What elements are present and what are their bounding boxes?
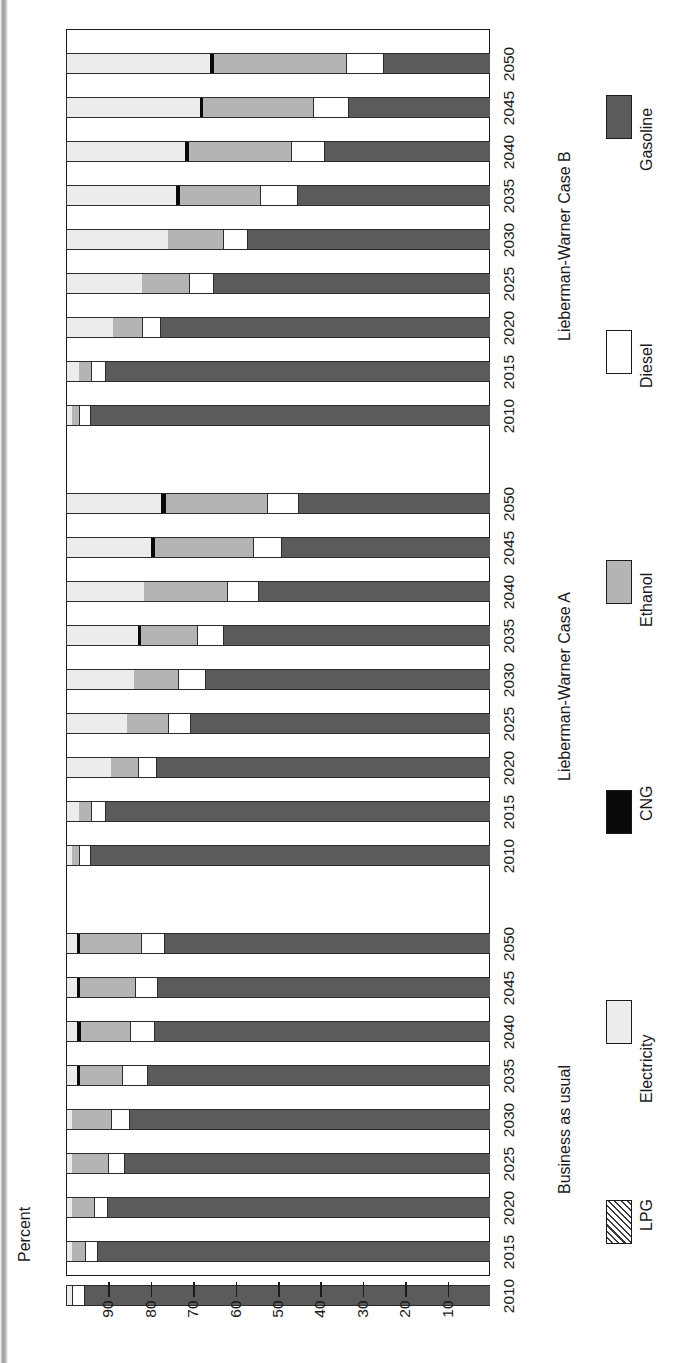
bar-segment-ethanol [203,97,313,118]
bar-segment-gasoline [349,97,490,118]
legend-label-diesel: Diesel [638,344,656,388]
table-row [66,1241,490,1262]
legend-item-gasoline: Gasoline [598,95,696,245]
bar-segment-electricity [66,933,77,954]
table-row [66,713,490,734]
axis-tick-label-10: 10 [439,1289,457,1329]
bar-segment-ethanol [189,141,291,162]
year-label-2025: 2025 [492,1153,548,1174]
bar-segment-ethanol [141,625,196,646]
legend-label-electricity: Electricity [638,1035,656,1103]
bar-segment-gasoline [158,977,490,998]
legend-swatch-ethanol-icon [606,560,632,604]
table-row [66,1109,490,1130]
year-label-2010: 2010 [492,845,548,866]
bar-segment-diesel [79,845,92,866]
bar-segment-diesel [85,1241,98,1262]
bar-segment-electricity [66,493,161,514]
bar-segment-gasoline [282,537,490,558]
bar-segment-diesel [135,977,158,998]
axis-tick-label-80: 80 [142,1289,160,1329]
bar-segment-ethanol [80,1065,122,1086]
year-label-2015: 2015 [492,1241,548,1262]
bar-segment-ethanol [214,53,345,74]
legend-item-lpg: LPG [598,1200,696,1350]
bar-segment-gasoline [91,405,490,426]
bar-segment-ethanol [134,669,179,690]
bar-segment-gasoline [299,493,490,514]
legend-swatch-electricity-icon [606,1000,632,1044]
bar-segment-electricity [66,1065,77,1086]
bar-segment-ethanol [127,713,167,734]
bar-segment-diesel [142,317,161,338]
axis-tick-label-60: 60 [227,1289,245,1329]
legend-label-gasoline: Gasoline [638,108,656,171]
year-label-2020: 2020 [492,757,548,778]
bar-segment-ethanol [72,1241,85,1262]
axis-tick-label-50: 50 [269,1289,287,1329]
table-row [66,1065,490,1086]
bar-segment-gasoline [125,1153,490,1174]
legend-swatch-lpg-icon [606,1200,632,1244]
bar-segment-gasoline [130,1109,490,1130]
bar-segment-electricity [66,581,144,602]
year-label-2035: 2035 [492,1065,548,1086]
bar-segment-electricity [66,361,79,382]
table-row [66,53,490,74]
legend-label-ethanol: Ethanol [638,573,656,627]
year-label-2020: 2020 [492,1197,548,1218]
bar-segment-diesel [91,801,106,822]
bar-segment-gasoline [106,361,490,382]
table-row [66,141,490,162]
bar-segment-ethanol [180,185,261,206]
year-label-2035: 2035 [492,625,548,646]
value-axis: 908070605040302010 [66,1276,490,1277]
bar-segment-diesel [223,229,248,250]
table-row [66,1021,490,1042]
table-row [66,1197,490,1218]
group-label-lw-case-a: Lieberman-Warner Case A [556,592,574,781]
bar-segment-ethanol [72,1197,93,1218]
bar-segment-gasoline [155,1021,490,1042]
bar-segment-gasoline [298,185,490,206]
bar-segment-diesel [141,933,164,954]
bar-segment-diesel [79,405,92,426]
bar-segment-diesel [94,1197,109,1218]
axis-tick-label-20: 20 [396,1289,414,1329]
legend-label-lpg: LPG [638,1199,656,1231]
year-label-2030: 2030 [492,229,548,250]
bar-segment-diesel [122,1065,147,1086]
bar-segment-diesel [108,1153,125,1174]
bar-segment-electricity [66,229,168,250]
year-label-2050: 2050 [492,933,548,954]
axis-tick-label-30: 30 [354,1289,372,1329]
year-label-2015: 2015 [492,361,548,382]
legend-label-cng: CNG [638,785,656,821]
bar-segment-diesel [313,97,349,118]
bar-segment-diesel [111,1109,130,1130]
stacked-bar-figure: 908070605040302010 Percent 2050204520402… [0,0,696,1363]
table-row [66,625,490,646]
table-row [66,493,490,514]
bar-segment-gasoline [191,713,490,734]
bar-segment-gasoline [214,273,490,294]
bar-segment-diesel [260,185,298,206]
year-label-2050: 2050 [492,493,548,514]
table-row [66,977,490,998]
bar-segment-ethanol [80,977,135,998]
legend-item-ethanol: Ethanol [598,560,696,710]
legend-swatch-gasoline-icon [606,95,632,139]
legend-item-electricity: Electricity [598,1000,696,1150]
table-row [66,669,490,690]
bar-segment-ethanol [79,361,92,382]
axis-tick-label-70: 70 [184,1289,202,1329]
bar-segment-electricity [66,669,134,690]
bar-segment-diesel [291,141,325,162]
bar-segment-ethanol [168,229,223,250]
year-label-2025: 2025 [492,713,548,734]
bar-segment-gasoline [165,933,490,954]
year-label-2025: 2025 [492,273,548,294]
bar-segment-gasoline [325,141,490,162]
chart-page: 908070605040302010 Percent 2050204520402… [0,0,696,1363]
legend-item-diesel: Diesel [598,330,696,480]
